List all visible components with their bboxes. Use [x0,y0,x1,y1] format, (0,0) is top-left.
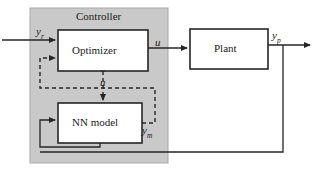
reference-signal-subscript: r [41,32,44,41]
controller-region-label: Controller [76,10,121,22]
model-output-label: ym [142,120,152,140]
control-signal-label: u [155,32,161,50]
nn-model-block-label: NN model [72,116,118,128]
tilde-accent-icon: ~ [100,66,106,76]
control-estimate-label: ~ u [100,72,106,90]
control-estimate-base: u [100,76,106,88]
reference-signal-label: yr [36,21,44,41]
plant-output-label: yp [272,25,281,45]
plant-block-label: Plant [214,42,237,54]
optimizer-block-label: Optimizer [72,44,117,56]
block-diagram-canvas: Controller Optimizer NN model Plant yr u… [0,0,317,177]
diagram-svg [0,0,317,177]
model-output-subscript: m [147,131,152,140]
plant-output-subscript: p [277,36,281,45]
control-signal-base: u [155,36,161,48]
